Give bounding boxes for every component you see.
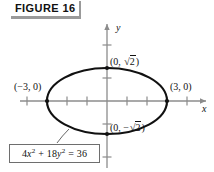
vertex-bottom-marker [105, 132, 109, 136]
label-left-intercept: (−3, 0) [14, 81, 41, 92]
sqrt-icon: √2 [129, 122, 142, 133]
vertex-right-marker [165, 99, 169, 103]
figure-panel: FIGURE 16 [0, 0, 214, 172]
vertex-top-marker [105, 66, 109, 70]
equation-leader-line [57, 129, 69, 143]
label-bottom-prefix: (0, − [110, 122, 129, 133]
equation-rhs: 36 [77, 148, 87, 159]
x-axis-label: x [202, 104, 206, 114]
label-bottom-intercept: (0, −√2) [110, 122, 145, 133]
label-right-intercept: (3, 0) [170, 81, 192, 92]
label-top-radicand: 2 [130, 55, 136, 67]
equation-exp-y: 2 [62, 147, 66, 155]
equation-callout-box: 4x2 + 18y2 = 36 [9, 144, 100, 163]
equation-coef-y: 18 [47, 148, 57, 159]
vertex-left-marker [45, 99, 49, 103]
label-top-prefix: (0, [110, 56, 123, 67]
label-bottom-suffix: ) [141, 122, 144, 133]
label-top-intercept: (0, √2) [110, 56, 139, 67]
label-top-suffix: ) [136, 56, 139, 67]
equation-operator: + [38, 148, 44, 159]
equation-text: 4x2 + 18y2 = 36 [22, 148, 87, 159]
sqrt-icon: √2 [123, 56, 136, 67]
y-axis-arrow [104, 24, 109, 30]
y-axis-label: y [116, 23, 120, 33]
label-bottom-radicand: 2 [135, 121, 141, 133]
equation-equals: = [68, 148, 74, 159]
equation-exp-x: 2 [32, 147, 36, 155]
